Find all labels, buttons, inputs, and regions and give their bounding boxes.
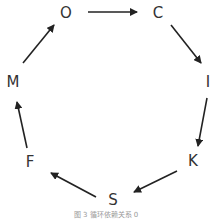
edge-i-k	[198, 98, 207, 146]
edge-c-i	[171, 25, 201, 63]
edge-k-s	[134, 171, 177, 192]
node-o: O	[60, 6, 72, 21]
node-m: M	[7, 75, 20, 90]
edges-layer	[0, 0, 212, 221]
node-f: F	[26, 155, 35, 170]
figure-caption: 图 3 循环依赖关系 0	[0, 212, 212, 219]
node-s: S	[108, 193, 118, 208]
edge-f-m	[17, 102, 27, 148]
edge-m-o	[23, 25, 54, 63]
node-c: C	[153, 6, 163, 21]
node-i: I	[206, 75, 210, 90]
node-k: K	[188, 154, 198, 169]
edge-s-f	[51, 173, 96, 197]
